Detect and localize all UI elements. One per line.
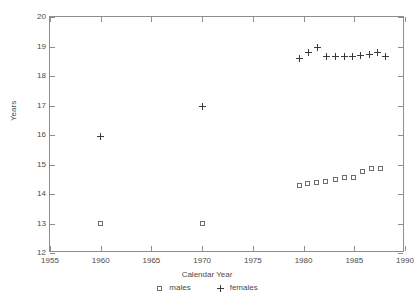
x-tick-label: 1990 bbox=[396, 255, 414, 266]
plus-marker-icon bbox=[369, 51, 370, 58]
plus-marker-icon bbox=[352, 53, 353, 60]
plus-marker-icon bbox=[360, 52, 361, 59]
square-marker-icon bbox=[156, 284, 164, 292]
x-tick-mark-top bbox=[253, 17, 254, 22]
plot-area: 121314151617181920 195519601965197019751… bbox=[49, 16, 404, 252]
square-marker-icon bbox=[323, 179, 328, 184]
y-tick-mark-right bbox=[398, 253, 403, 254]
chart-legend: malesfemales bbox=[0, 283, 414, 293]
plus-marker-icon bbox=[217, 284, 225, 292]
x-tick-mark bbox=[101, 246, 102, 251]
x-tick-label: 1980 bbox=[295, 255, 313, 266]
plus-marker-icon bbox=[335, 53, 336, 60]
square-marker-icon bbox=[297, 183, 302, 188]
x-tick-label: 1975 bbox=[244, 255, 262, 266]
plus-marker-icon bbox=[202, 103, 203, 110]
x-tick-mark bbox=[151, 246, 152, 251]
x-tick-label: 1965 bbox=[143, 255, 161, 266]
x-tick-mark bbox=[202, 246, 203, 251]
y-tick-label: 18 bbox=[37, 70, 46, 81]
y-tick-label: 16 bbox=[37, 129, 46, 140]
square-marker-icon bbox=[342, 175, 347, 180]
y-tick-mark bbox=[50, 165, 55, 166]
x-tick-mark bbox=[50, 246, 51, 251]
chart-figure: Years 121314151617181920 195519601965197… bbox=[0, 0, 414, 306]
y-tick-mark-right bbox=[398, 165, 403, 166]
plus-marker-icon bbox=[308, 49, 309, 56]
x-tick-mark bbox=[253, 246, 254, 251]
legend-label: females bbox=[230, 283, 258, 293]
x-tick-mark bbox=[354, 246, 355, 251]
caption-fragment bbox=[0, 298, 414, 306]
x-tick-label: 1955 bbox=[41, 255, 59, 266]
x-tick-mark-top bbox=[50, 17, 51, 22]
x-tick-mark bbox=[405, 246, 406, 251]
plus-marker-icon bbox=[100, 133, 101, 140]
legend-entry-males: males bbox=[156, 283, 190, 293]
y-tick-mark bbox=[50, 47, 55, 48]
x-tick-label: 1960 bbox=[92, 255, 110, 266]
y-tick-mark-right bbox=[398, 224, 403, 225]
plus-marker-icon bbox=[344, 53, 345, 60]
square-marker-icon bbox=[360, 169, 365, 174]
y-tick-mark-right bbox=[398, 47, 403, 48]
square-marker-icon bbox=[351, 175, 356, 180]
square-marker-icon bbox=[98, 221, 103, 226]
plus-marker-icon bbox=[385, 53, 386, 60]
y-tick-mark-right bbox=[398, 17, 403, 18]
y-tick-mark-right bbox=[398, 76, 403, 77]
y-tick-mark bbox=[50, 253, 55, 254]
y-tick-label: 20 bbox=[37, 11, 46, 22]
y-tick-mark bbox=[50, 224, 55, 225]
square-marker-icon bbox=[305, 181, 310, 186]
x-tick-label: 1985 bbox=[345, 255, 363, 266]
plus-marker-icon bbox=[326, 53, 327, 60]
plus-marker-icon bbox=[299, 55, 300, 62]
x-tick-mark bbox=[304, 246, 305, 251]
legend-label: males bbox=[169, 283, 190, 293]
y-tick-mark bbox=[50, 106, 55, 107]
square-marker-icon bbox=[378, 166, 383, 171]
square-marker-icon bbox=[369, 166, 374, 171]
y-tick-mark bbox=[50, 135, 55, 136]
y-axis-title: Years bbox=[9, 101, 18, 121]
x-tick-mark-top bbox=[354, 17, 355, 22]
x-tick-mark-top bbox=[405, 17, 406, 22]
y-tick-label: 15 bbox=[37, 159, 46, 170]
square-marker-icon bbox=[333, 177, 338, 182]
legend-entry-females: females bbox=[217, 283, 258, 293]
x-tick-mark-top bbox=[304, 17, 305, 22]
y-tick-mark bbox=[50, 76, 55, 77]
square-marker-icon bbox=[314, 180, 319, 185]
y-tick-label: 14 bbox=[37, 188, 46, 199]
y-tick-label: 19 bbox=[37, 41, 46, 52]
plus-marker-icon bbox=[377, 49, 378, 56]
x-tick-mark-top bbox=[101, 17, 102, 22]
square-marker-icon bbox=[200, 221, 205, 226]
y-tick-label: 17 bbox=[37, 100, 46, 111]
x-tick-label: 1970 bbox=[193, 255, 211, 266]
y-tick-mark-right bbox=[398, 106, 403, 107]
plus-marker-icon bbox=[317, 44, 318, 51]
y-tick-label: 13 bbox=[37, 218, 46, 229]
y-tick-mark-right bbox=[398, 194, 403, 195]
y-tick-mark bbox=[50, 194, 55, 195]
y-tick-mark-right bbox=[398, 135, 403, 136]
x-axis-title: Calendar Year bbox=[0, 270, 414, 280]
x-tick-mark-top bbox=[151, 17, 152, 22]
x-tick-mark-top bbox=[202, 17, 203, 22]
